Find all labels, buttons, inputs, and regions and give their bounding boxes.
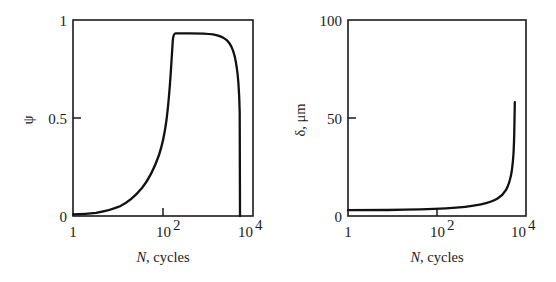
- svg-text:4: 4: [255, 217, 263, 233]
- x-ticklabel-left-1e4: 10 4: [238, 217, 263, 240]
- x-axis-title-right: N, cycles: [409, 249, 464, 265]
- data-curve-psi: [73, 33, 240, 216]
- plot-frame-right: [348, 20, 526, 216]
- y-axis-title-right: δ, μm: [292, 103, 308, 137]
- y-ticklabel-left-1: 1: [60, 13, 68, 29]
- x-ticklabel-right-1e2: 10 2: [430, 217, 455, 240]
- y-axis-title-left: ψ: [20, 115, 36, 124]
- figure-container: 1 0.5 0 ψ 1 10 2 10 4 N, cycles: [0, 0, 556, 282]
- svg-text:10: 10: [238, 224, 253, 240]
- x-axis-title-left: N, cycles: [135, 249, 190, 265]
- y-ticklabel-right-0: 0: [335, 209, 343, 225]
- svg-text:N, cycles: N, cycles: [135, 249, 190, 265]
- y-ticklabel-left-0: 0: [60, 209, 68, 225]
- x-ticklabel-right-1: 1: [344, 224, 352, 240]
- svg-text:10: 10: [511, 224, 526, 240]
- chart-panel-psi: 1 0.5 0 ψ 1 10 2 10 4 N, cycles: [0, 0, 278, 282]
- y-ticklabel-right-100: 100: [320, 13, 343, 29]
- svg-text:δ, μm: δ, μm: [292, 103, 308, 137]
- plot-frame-left: [73, 20, 253, 216]
- data-curve-delta: [348, 102, 515, 210]
- svg-text:2: 2: [447, 217, 455, 233]
- y-ticklabel-left-0.5: 0.5: [48, 111, 67, 127]
- svg-text:10: 10: [430, 224, 445, 240]
- svg-text:10: 10: [156, 224, 171, 240]
- svg-text:4: 4: [528, 217, 536, 233]
- y-ticklabel-right-50: 50: [327, 111, 342, 127]
- chart-panel-delta: 100 50 0 δ, μm 1 10 2 10 4 N, cycles: [278, 0, 556, 282]
- x-ticklabel-right-1e4: 10 4: [511, 217, 536, 240]
- svg-text:2: 2: [173, 217, 181, 233]
- svg-text:ψ: ψ: [20, 115, 36, 124]
- svg-text:N, cycles: N, cycles: [409, 249, 464, 265]
- x-ticklabel-left-1: 1: [69, 224, 77, 240]
- x-ticklabel-left-1e2: 10 2: [156, 217, 181, 240]
- x-axis-title-right-rest: , cycles: [420, 249, 464, 265]
- x-axis-title-left-rest: , cycles: [146, 249, 190, 265]
